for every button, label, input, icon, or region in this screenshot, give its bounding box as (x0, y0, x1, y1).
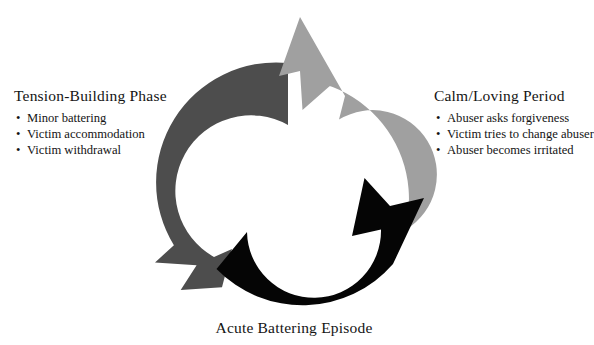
acute-battering-arrow-shape (217, 178, 425, 305)
background-watermark (392, 82, 395, 94)
list-item-label: Abuser becomes irritated (447, 143, 574, 157)
bullet-icon: • (436, 110, 440, 126)
calm-loving-arrow-shape (279, 17, 437, 277)
calm-loving-list: •Abuser asks forgiveness •Victim tries t… (434, 110, 594, 159)
list-item: •Victim tries to change abuser (434, 126, 594, 142)
list-item: •Abuser asks forgiveness (434, 110, 594, 126)
tension-building-list: •Minor battering •Victim accommodation •… (14, 110, 167, 159)
acute-battering-title: Acute Battering Episode (216, 319, 373, 336)
calm-loving-text-block: Calm/Loving Period •Abuser asks forgiven… (434, 86, 594, 159)
list-item: •Abuser becomes irritated (434, 142, 594, 158)
list-item-label: Abuser asks forgiveness (447, 111, 569, 125)
bullet-icon: • (436, 126, 440, 142)
bullet-icon: • (16, 110, 20, 126)
list-item-label: Minor battering (27, 111, 106, 125)
calm-loving-title: Calm/Loving Period (434, 86, 594, 105)
list-item: •Victim accommodation (14, 126, 167, 142)
tension-building-title: Tension-Building Phase (14, 86, 167, 105)
tension-building-arrow-shape (155, 62, 288, 290)
list-item-label: Victim withdrawal (27, 143, 121, 157)
bullet-icon: • (16, 142, 20, 158)
list-item: •Victim withdrawal (14, 142, 167, 158)
tension-building-text-block: Tension-Building Phase •Minor battering … (14, 86, 167, 159)
list-item: •Minor battering (14, 110, 167, 126)
bullet-icon: • (16, 126, 20, 142)
list-item-label: Victim accommodation (27, 127, 145, 141)
bullet-icon: • (436, 142, 440, 158)
acute-battering-text-block: Acute Battering Episode (0, 318, 588, 337)
list-item-label: Victim tries to change abuser (447, 127, 594, 141)
